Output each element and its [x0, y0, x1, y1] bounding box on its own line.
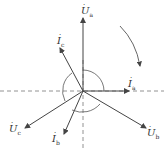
label-ib: ·Ib [52, 134, 60, 146]
label-ia: ·Ia [128, 79, 136, 91]
phasor-diagram: ·Ua ·Ic ·Ia ·Uc ·Ib ·Ub [0, 0, 164, 151]
rotation-arrow-icon [120, 26, 140, 66]
label-uc: ·Uc [9, 124, 21, 136]
angle-arc-c [63, 73, 72, 101]
label-ic: ·Ic [57, 36, 64, 48]
label-ua: ·Ua [81, 6, 93, 18]
phasor-lines [0, 0, 164, 151]
label-ub: ·Ub [147, 128, 159, 140]
angle-arc-a [83, 70, 104, 91]
